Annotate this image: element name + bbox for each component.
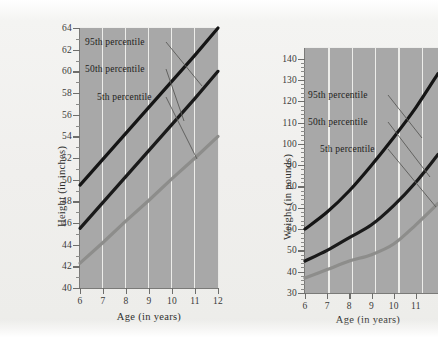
weight-annotation-95: 95th percentile bbox=[308, 90, 368, 100]
height-annotation-50: 50th percentile bbox=[85, 64, 145, 74]
series-line-5th bbox=[80, 136, 218, 263]
weight-series-layer bbox=[240, 0, 438, 345]
height-annotation-5: 5th percentile bbox=[97, 92, 152, 102]
height-chart: 40424446485052545658606264 6789101112 Ag… bbox=[0, 0, 240, 345]
weight-annotation-50: 50th percentile bbox=[308, 117, 368, 127]
weight-chart: 30405060708090100110120130140 67891011 A… bbox=[240, 0, 438, 345]
weight-annotation-5: 5th percentile bbox=[320, 144, 375, 154]
series-line-50th bbox=[305, 155, 438, 262]
annotation-leader-line bbox=[388, 122, 430, 177]
series-line-95th bbox=[80, 28, 218, 185]
height-series-layer bbox=[0, 0, 240, 345]
figure-page: 40424446485052545658606264 6789101112 Ag… bbox=[0, 0, 438, 345]
annotation-leader-line bbox=[388, 95, 422, 138]
height-annotation-95: 95th percentile bbox=[85, 37, 145, 47]
annotation-leader-line bbox=[388, 149, 436, 207]
